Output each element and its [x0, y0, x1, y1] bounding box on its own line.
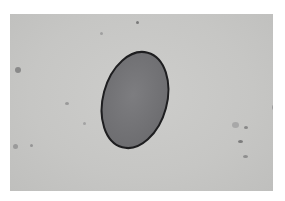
micrograph-frame: [10, 14, 273, 191]
egg-object: [10, 14, 273, 191]
